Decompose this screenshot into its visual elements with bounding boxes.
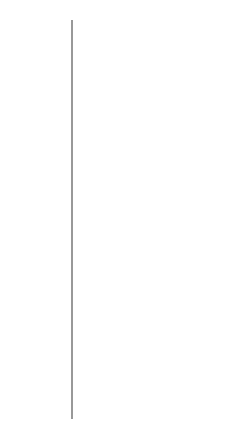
diagram-lines: [0, 0, 230, 437]
